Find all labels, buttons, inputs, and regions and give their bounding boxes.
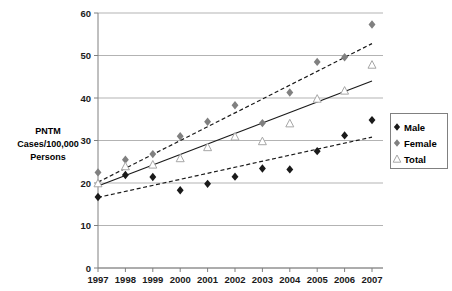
y-tick-label-60: 60	[80, 8, 91, 19]
x-tick-label-2005: 2005	[307, 274, 329, 285]
x-tick-label-2007: 2007	[361, 274, 382, 285]
x-tick-label-2002: 2002	[224, 274, 245, 285]
chart-container: 0102030405060 19971998199920002001200220…	[0, 0, 452, 291]
y-axis-title-line-3: Persons	[30, 152, 66, 162]
x-tick-label-1998: 1998	[115, 274, 136, 285]
legend-label-female: Female	[404, 138, 437, 149]
x-axis-tick-labels: 1997199819992000200120022003200420052006…	[87, 274, 382, 285]
y-tick-label-0: 0	[86, 263, 91, 274]
x-tick-label-1999: 1999	[142, 274, 163, 285]
y-axis-title-line-2: Cases/100,000	[17, 139, 79, 149]
pntm-cases-scatter-chart: 0102030405060 19971998199920002001200220…	[0, 0, 452, 291]
y-tick-label-10: 10	[80, 220, 91, 231]
y-tick-label-40: 40	[80, 93, 91, 104]
x-tick-label-1997: 1997	[87, 274, 108, 285]
y-axis-title-line-1: PNTM	[35, 126, 61, 136]
y-tick-label-50: 50	[80, 50, 91, 61]
x-tick-label-2003: 2003	[252, 274, 273, 285]
chart-legend: MaleFemaleTotal	[391, 114, 448, 169]
y-tick-label-30: 30	[80, 135, 91, 146]
legend-label-male: Male	[404, 122, 425, 133]
y-tick-label-20: 20	[80, 178, 91, 189]
x-tick-label-2004: 2004	[279, 274, 301, 285]
x-tick-label-2001: 2001	[197, 274, 219, 285]
x-tick-label-2006: 2006	[334, 274, 355, 285]
x-tick-label-2000: 2000	[170, 274, 191, 285]
legend-label-total: Total	[404, 154, 426, 165]
